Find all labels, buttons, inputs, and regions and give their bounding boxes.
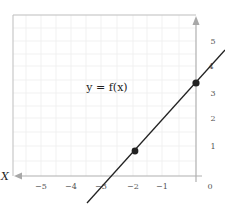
data-point-a — [132, 148, 139, 155]
y-tick-label: 2 — [210, 114, 215, 123]
y-tick-label: 1 — [210, 142, 215, 151]
function-graph: X −5 −4 −3 −2 −1 0 5 4 3 2 1 y = f(x) — [0, 0, 225, 209]
function-label: y = f(x) — [85, 81, 127, 94]
y-tick-label: 3 — [210, 89, 215, 98]
x-axis-name: X — [0, 170, 10, 183]
data-point-b — [192, 79, 199, 86]
x-tick-label: 0 — [207, 182, 212, 191]
function-line — [87, 50, 225, 203]
y-axis-arrow-icon — [193, 16, 200, 25]
plot-frame — [13, 15, 196, 176]
y-tick-label: 5 — [210, 37, 215, 46]
x-tick-label: −1 — [156, 182, 168, 191]
x-tick-label: −4 — [65, 182, 77, 191]
x-tick-label: −2 — [127, 182, 139, 191]
x-axis-arrow-icon — [14, 173, 22, 180]
grid — [13, 15, 196, 176]
x-tick-label: −5 — [35, 182, 47, 191]
